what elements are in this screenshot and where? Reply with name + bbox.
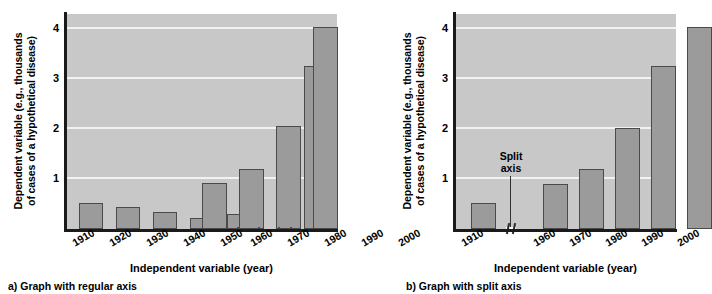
panel-a-ytick-1: 1 [43,172,59,184]
panel-a-caption: a) Graph with regular axis [8,280,137,292]
panel-a-bar-2000 [313,27,338,229]
panel-b-x-axis-line [453,229,677,232]
panel-b-y-axis-title: Dependent variable (e.g., thousands of c… [401,14,426,228]
panel-b-ytick-3: 3 [432,72,448,84]
panel-b-split-axis-leader-line [510,176,511,228]
panel-b-split-axis-label: Split axis [489,150,533,174]
panel-b-ytick-1: 1 [432,172,448,184]
panel-b-y-axis-line [453,12,456,231]
panel-b-bar-2000 [687,27,712,229]
panel-b-bars-overlay [455,14,676,229]
panel-a-bars-overlay-4 [66,14,337,229]
panel-a-y-axis-line [64,12,67,231]
panel-b-x-axis-title: Independent variable (year) [455,262,676,274]
panel-a-x-axis-title: Independent variable (year) [66,262,337,274]
panel-a-ytick-3: 3 [43,72,59,84]
panel-a-ytick-2: 2 [43,122,59,134]
panel-b-xtick-2000: 2000 [675,226,701,248]
panel-b-ytick-2: 2 [432,122,448,134]
panel-a-ytick-4: 4 [43,22,59,34]
panel-a-regular-axis: Dependent variable (e.g., thousands of c… [0,0,339,294]
panel-b-ytick-4: 4 [432,22,448,34]
panel-a-y-axis-title: Dependent variable (e.g., thousands of c… [12,14,37,228]
panel-b-caption: b) Graph with split axis [406,280,522,292]
panel-b-split-axis: Dependent variable (e.g., thousands of c… [339,0,678,294]
